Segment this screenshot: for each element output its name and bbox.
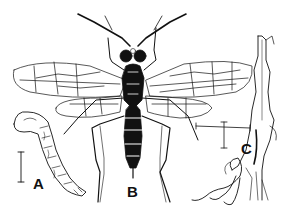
adult-right-wings	[146, 61, 252, 118]
damaged-stem	[192, 36, 276, 205]
adult-left-wings	[13, 62, 126, 117]
panel-label-b: B	[127, 184, 138, 199]
panel-label-a: A	[33, 176, 44, 191]
adult-antennae	[78, 14, 186, 46]
panel-label-c: C	[241, 141, 252, 156]
adult-body	[120, 49, 146, 179]
scale-bar-a	[18, 152, 24, 182]
larva	[14, 112, 86, 196]
